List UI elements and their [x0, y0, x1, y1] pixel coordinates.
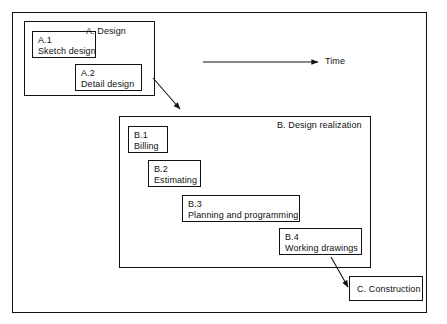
arrow-realization-to-construction-icon [331, 257, 348, 287]
diagram-canvas: A. Design A.1 Sketch design A.2 Detail d… [0, 0, 447, 324]
arrow-design-to-realization-icon [153, 78, 180, 109]
arrow-layer [0, 0, 447, 324]
